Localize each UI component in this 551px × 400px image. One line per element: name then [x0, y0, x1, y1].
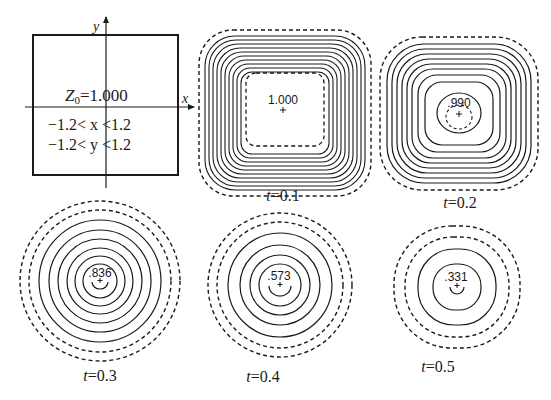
time-label-t03: t=0.3 [83, 367, 116, 384]
contour-panel-t04 [208, 213, 352, 357]
contour-panel-t03 [20, 201, 180, 361]
center-marker-icon [456, 111, 462, 117]
peak-value-t03: .836 [88, 266, 112, 280]
peak-value-t04: .573 [267, 269, 291, 283]
time-label-t05: t=0.5 [421, 358, 454, 375]
y-range-label: −1.2< y <1.2 [48, 136, 131, 154]
time-label-t04: t=0.4 [246, 368, 279, 385]
center-marker-icon [280, 107, 286, 113]
contour-panel-t02 [380, 37, 538, 190]
x-axis-label: x [181, 91, 189, 106]
initial-condition-panel: x y Z0=1.000 −1.2< x <1.2 −1.2< y <1.2 [25, 17, 194, 188]
contour-figure: x y Z0=1.000 −1.2< x <1.2 −1.2< y <1.2 1… [0, 0, 551, 400]
time-label-t02: t=0.2 [443, 194, 476, 211]
z0-label: Z0=1.000 [65, 86, 128, 106]
peak-value-t05: .331 [444, 270, 468, 284]
y-axis-label: y [91, 19, 100, 34]
contour-panel-t01 [199, 30, 371, 196]
time-label-t01: t=0.1 [266, 187, 299, 204]
peak-value-t01: 1.000 [268, 93, 298, 107]
contour-panel-t05 [394, 226, 520, 348]
x-range-label: −1.2< x <1.2 [48, 116, 131, 133]
peak-value-t02: .990 [447, 96, 471, 110]
